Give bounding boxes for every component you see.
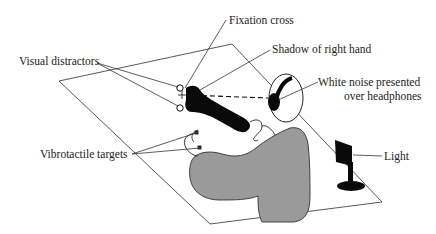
experimental-setup-diagram: Fixation cross Shadow of right hand Visu… — [0, 0, 436, 234]
label-white-noise-line1: White noise presented — [318, 76, 420, 89]
light-icon — [335, 140, 365, 191]
label-visual-distractors: Visual distractors — [19, 55, 99, 68]
label-light: Light — [384, 150, 409, 163]
right-hand-outline — [250, 120, 262, 141]
label-shadow-right-hand: Shadow of right hand — [272, 43, 371, 56]
visual-distractor-upper — [177, 85, 183, 91]
label-white-noise-line2: over headphones — [344, 90, 422, 103]
label-fixation-cross: Fixation cross — [229, 14, 294, 27]
participant-body — [190, 128, 310, 222]
fixation-cross-icon — [178, 91, 186, 99]
hand-shadow — [185, 86, 250, 132]
label-vibrotactile-targets: Vibrotactile targets — [40, 148, 128, 161]
diagram-graphic — [0, 0, 436, 234]
